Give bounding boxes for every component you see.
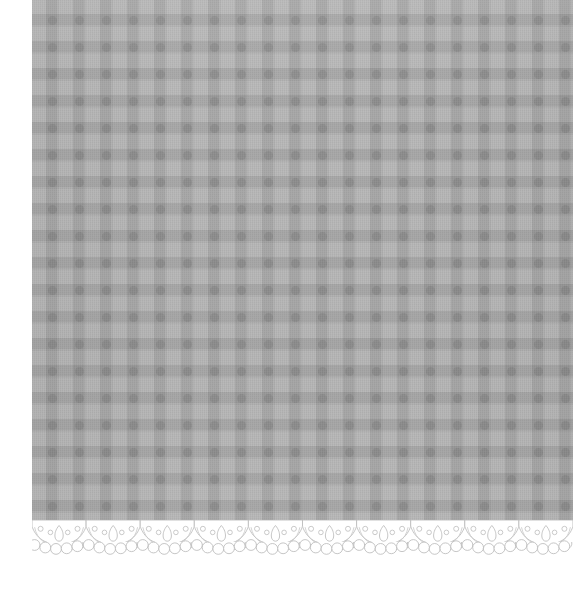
gingham-fabric-panel [32, 0, 573, 532]
image-canvas [0, 0, 573, 598]
fabric-shading-overlay [32, 0, 573, 532]
scalloped-lace-trim [32, 520, 573, 564]
